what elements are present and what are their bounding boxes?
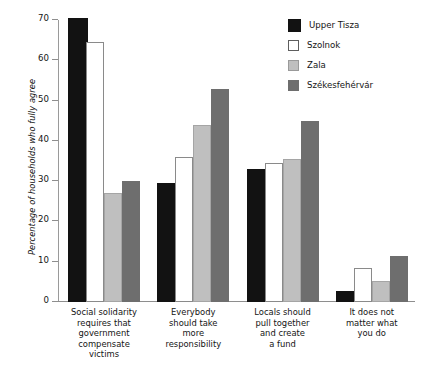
category-label-line: more bbox=[143, 328, 244, 339]
bar bbox=[157, 183, 177, 302]
bar bbox=[86, 42, 104, 302]
bar bbox=[68, 18, 88, 302]
legend-label: Székesfehérvár bbox=[307, 80, 373, 90]
bar bbox=[122, 181, 140, 302]
bar bbox=[336, 291, 356, 302]
category-label: It does notmatter whatyou do bbox=[321, 307, 422, 339]
bar bbox=[265, 163, 283, 302]
bar-chart: Percentage of households who fully agree… bbox=[0, 0, 423, 374]
bar-group bbox=[157, 20, 229, 302]
legend-item[interactable]: Zala bbox=[288, 56, 418, 74]
legend-swatch-icon bbox=[288, 80, 299, 91]
category-label-line: compensate bbox=[53, 339, 154, 350]
y-tick-label: 40 bbox=[38, 134, 49, 144]
y-tick-label: 60 bbox=[38, 53, 49, 63]
legend-item[interactable]: Szolnok bbox=[288, 36, 418, 54]
category-label: Social solidarityrequires thatgovernment… bbox=[53, 307, 154, 360]
legend-item[interactable]: Székesfehérvár bbox=[288, 76, 418, 94]
category-label-line: Social solidarity bbox=[53, 307, 154, 318]
category-label-line: responsibility bbox=[143, 339, 244, 350]
category-label-line: It does not bbox=[321, 307, 422, 318]
y-tick-label: 70 bbox=[38, 13, 49, 23]
bar bbox=[211, 89, 229, 303]
bar-group bbox=[68, 20, 140, 302]
bar bbox=[193, 125, 211, 302]
category-label-line: requires that bbox=[53, 318, 154, 329]
legend-label: Upper Tisza bbox=[309, 20, 359, 30]
bar bbox=[247, 169, 267, 302]
category-label-line: and create bbox=[232, 328, 333, 339]
bar bbox=[301, 121, 319, 302]
y-tick-label: 0 bbox=[44, 295, 49, 305]
category-label-line: a fund bbox=[232, 339, 333, 350]
bar bbox=[390, 256, 408, 302]
category-label-line: government bbox=[53, 328, 154, 339]
category-label: Everybodyshould takemoreresponsibility bbox=[143, 307, 244, 349]
y-tick-label: 50 bbox=[38, 94, 49, 104]
y-tick-label: 10 bbox=[38, 255, 49, 265]
category-label-line: Locals should bbox=[232, 307, 333, 318]
category-label-line: victims bbox=[53, 349, 154, 360]
bar bbox=[372, 281, 390, 302]
legend-label: Zala bbox=[307, 60, 326, 70]
bar bbox=[354, 268, 372, 302]
bar bbox=[104, 193, 122, 302]
legend-swatch-icon bbox=[288, 40, 299, 51]
category-label: Locals shouldpull togetherand createa fu… bbox=[232, 307, 333, 349]
legend-label: Szolnok bbox=[307, 40, 340, 50]
category-label-line: you do bbox=[321, 328, 422, 339]
y-tick-label: 30 bbox=[38, 174, 49, 184]
category-label-line: pull together bbox=[232, 318, 333, 329]
legend-item[interactable]: Upper Tisza bbox=[288, 16, 418, 34]
chart-legend: Upper TiszaSzolnokZalaSzékesfehérvár bbox=[288, 16, 418, 96]
bar bbox=[283, 159, 301, 302]
bar bbox=[175, 157, 193, 302]
category-label-line: should take bbox=[143, 318, 244, 329]
x-axis-category-labels: Social solidarityrequires thatgovernment… bbox=[58, 307, 415, 373]
legend-swatch-icon bbox=[288, 19, 301, 32]
category-label-line: matter what bbox=[321, 318, 422, 329]
category-label-line: Everybody bbox=[143, 307, 244, 318]
legend-swatch-icon bbox=[288, 60, 299, 71]
y-axis-title: Percentage of households who fully agree bbox=[27, 52, 37, 282]
y-tick-label: 20 bbox=[38, 214, 49, 224]
